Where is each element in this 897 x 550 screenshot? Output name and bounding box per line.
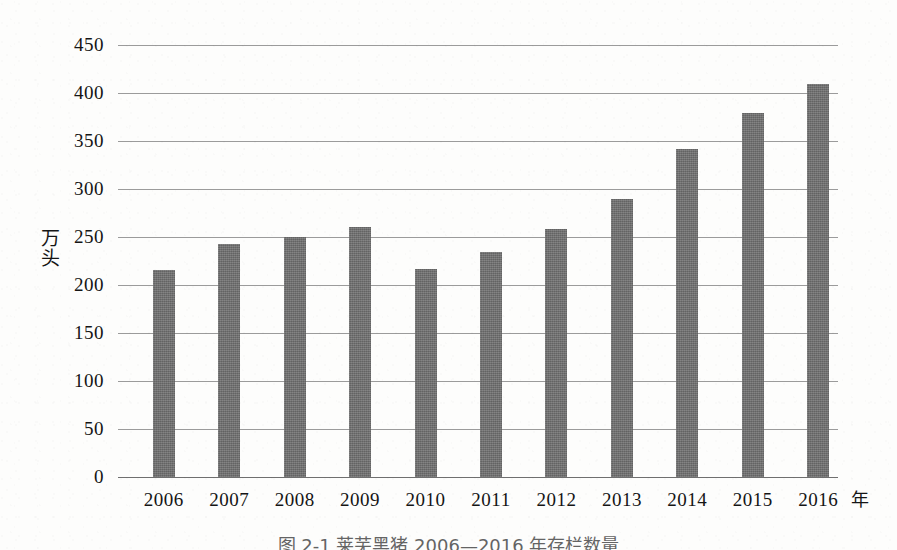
figure-caption-clip: 图 2-1 莱芜黑猪 2006—2016 年存栏数量 (0, 536, 897, 550)
bar (349, 227, 371, 477)
y-axis-tick-label: 350 (74, 130, 104, 152)
bar-series (118, 45, 838, 477)
y-axis-tick-label: 0 (94, 466, 104, 488)
bar (611, 199, 633, 477)
x-axis-tick-label: 2014 (667, 489, 707, 511)
bar (480, 252, 502, 477)
x-axis-tick-label: 2006 (144, 489, 184, 511)
y-axis-tick-label: 250 (74, 226, 104, 248)
bar (284, 237, 306, 477)
y-axis-tick-label: 200 (74, 274, 104, 296)
y-axis-tick-label: 100 (74, 370, 104, 392)
y-axis-title-char-1: 万 (38, 229, 62, 249)
bar-chart: 万 头 450400350300250200150100500 20062007… (0, 0, 897, 550)
x-axis-tick-label: 2007 (209, 489, 249, 511)
x-axis-unit-label: 年 (851, 485, 869, 511)
x-axis-tick-label: 2016 (798, 489, 838, 511)
y-axis-tick-label: 50 (84, 418, 104, 440)
x-axis-tick-label: 2012 (536, 489, 576, 511)
bar (676, 149, 698, 477)
bar (742, 113, 764, 477)
bar (807, 84, 829, 477)
bar (153, 270, 175, 477)
y-axis-tick-label: 150 (74, 322, 104, 344)
y-axis-tick-label: 400 (74, 82, 104, 104)
bar (218, 244, 240, 477)
x-axis-tick-label: 2013 (602, 489, 642, 511)
x-axis-tick-label: 2009 (340, 489, 380, 511)
y-axis-tick-label: 450 (74, 34, 104, 56)
x-axis-tick-label: 2011 (471, 489, 510, 511)
x-axis-tick-label: 2010 (406, 489, 446, 511)
figure-caption: 图 2-1 莱芜黑猪 2006—2016 年存栏数量 (0, 536, 897, 550)
y-axis-title: 万 头 (38, 229, 62, 268)
figure-page: 万 头 450400350300250200150100500 20062007… (0, 0, 897, 550)
bar (415, 269, 437, 477)
y-axis-tick-label: 300 (74, 178, 104, 200)
bar (545, 229, 567, 477)
x-axis-tick-label: 2015 (733, 489, 773, 511)
plot-area: 450400350300250200150100500 200620072008… (118, 45, 838, 477)
y-axis-title-char-2: 头 (38, 249, 62, 269)
x-axis-tick-label: 2008 (275, 489, 315, 511)
x-axis-baseline: 0 (118, 477, 838, 478)
